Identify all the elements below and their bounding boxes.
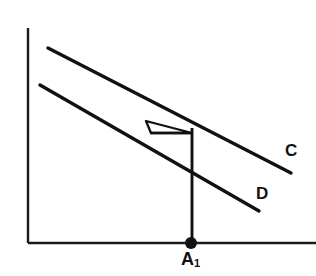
point-a1-label-subscript: 1 [194,257,200,269]
point-a1-label-base: A [181,249,194,269]
point-a1-marker [185,237,197,249]
diagram-svg [0,0,316,276]
intersection-triangle [146,121,192,133]
curve-d-line [40,85,259,211]
point-a1-label: A1 [181,250,200,268]
curve-d-label: D [256,185,268,202]
curve-c-label: C [285,142,297,159]
diagram-canvas: C D A1 [0,0,316,276]
